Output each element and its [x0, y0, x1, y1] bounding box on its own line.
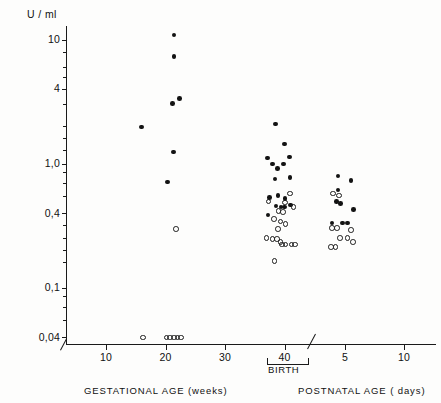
data-point-filled	[265, 156, 270, 161]
data-point-open	[272, 258, 278, 264]
y-tick-minor	[63, 320, 67, 321]
y-tick-minor	[63, 183, 67, 184]
y-tick-minor	[63, 138, 67, 139]
data-point-open	[292, 242, 298, 248]
x-tick	[345, 345, 346, 350]
x-tick	[285, 345, 286, 350]
data-point-open	[333, 244, 339, 250]
x-tick	[106, 345, 107, 350]
data-point-open	[283, 221, 289, 227]
y-tick-label: 4	[22, 82, 60, 94]
y-tick-major	[62, 40, 67, 41]
y-tick-minor	[63, 238, 67, 239]
x-tick	[404, 345, 405, 350]
data-point-open	[330, 191, 336, 197]
y-tick-minor	[63, 150, 67, 151]
y-tick-label: 0,04	[22, 331, 60, 343]
data-point-open	[275, 226, 281, 232]
data-point-open	[283, 242, 289, 248]
postnatal-axis-caption: POSTNATAL AGE ( days)	[298, 385, 425, 396]
data-point-open	[280, 209, 286, 215]
data-point-open	[334, 225, 340, 231]
x-tick-label: 10	[388, 351, 420, 363]
y-tick-minor	[63, 307, 67, 308]
data-point-open	[271, 216, 277, 222]
data-point-filled	[345, 221, 350, 226]
data-point-open	[336, 193, 342, 199]
x-tick	[225, 345, 226, 350]
data-point-open	[264, 235, 270, 241]
data-point-filled	[351, 207, 356, 212]
scatter-plot-figure: U / ml 1041,00,40,10,04 10203040510 BIRT…	[0, 0, 441, 403]
data-point-filled	[171, 150, 176, 155]
data-point-filled	[288, 175, 293, 180]
data-point-filled	[273, 122, 278, 127]
data-point-open	[345, 235, 351, 241]
data-point-filled	[170, 101, 175, 106]
data-point-filled	[275, 166, 280, 171]
y-tick-minor	[63, 104, 67, 105]
x-tick-label: 5	[329, 351, 361, 363]
y-tick-minor	[63, 250, 67, 251]
gestational-axis-caption: GESTATIONAL AGE (weeks)	[84, 385, 228, 396]
y-axis-unit-label: U / ml	[27, 8, 57, 20]
y-tick-minor	[63, 77, 67, 78]
x-axis-break-icon	[307, 334, 316, 350]
data-point-open	[266, 199, 272, 205]
y-tick-minor	[63, 126, 67, 127]
x-tick-label: 10	[90, 351, 122, 363]
data-point-filled	[165, 180, 170, 185]
y-tick-minor	[63, 52, 67, 53]
data-point-filled	[349, 178, 354, 183]
data-point-open	[350, 239, 356, 245]
x-tick	[166, 345, 167, 350]
data-point-open	[140, 335, 146, 341]
y-tick-major	[62, 288, 67, 289]
data-point-filled	[273, 177, 278, 182]
data-point-open	[178, 335, 184, 341]
x-tick-label: 20	[150, 351, 182, 363]
y-tick-label: 0,4	[22, 207, 60, 219]
y-tick-label: 1,0	[22, 157, 60, 169]
data-point-filled	[336, 188, 341, 193]
data-point-filled	[336, 174, 341, 179]
data-point-open	[287, 191, 293, 197]
data-point-filled	[172, 54, 177, 59]
y-tick-minor	[63, 262, 67, 263]
data-point-open	[348, 227, 354, 233]
y-tick-minor	[63, 225, 67, 226]
data-point-filled	[287, 155, 292, 160]
y-tick-label: 10	[22, 33, 60, 45]
birth-annotation-label: BIRTH	[268, 364, 299, 375]
data-point-filled	[266, 213, 271, 218]
data-point-filled	[177, 96, 182, 101]
data-point-open	[282, 200, 288, 206]
data-point-filled	[172, 33, 177, 38]
data-point-filled	[276, 193, 281, 198]
y-tick-major	[62, 89, 67, 90]
y-tick-major	[62, 213, 67, 214]
data-point-filled	[270, 162, 275, 167]
data-point-filled	[281, 162, 286, 167]
y-tick-minor	[63, 67, 67, 68]
y-tick-minor	[63, 296, 67, 297]
data-point-open	[173, 226, 179, 232]
y-tick-minor	[63, 196, 67, 197]
y-tick-label: 0,1	[22, 281, 60, 293]
y-tick-major	[62, 164, 67, 165]
data-point-open	[337, 235, 343, 241]
y-tick-minor	[63, 172, 67, 173]
data-point-filled	[282, 142, 287, 147]
data-point-filled	[338, 201, 343, 206]
data-point-open	[291, 204, 297, 210]
y-tick-major	[62, 337, 67, 338]
x-tick-label: 30	[209, 351, 241, 363]
data-point-filled	[139, 125, 144, 130]
x-axis-line	[66, 344, 436, 345]
